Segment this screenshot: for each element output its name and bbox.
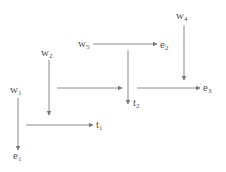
node-label-e2: e2 <box>160 38 169 52</box>
node-label-w2: w2 <box>41 46 53 60</box>
node-label-w5: w5 <box>78 37 90 51</box>
node-label-t2: t2 <box>133 96 140 110</box>
node-label-e1: e1 <box>13 149 22 163</box>
nodes-group: w1w2w5w4e1t1e2t2e3 <box>10 9 212 163</box>
edges-group <box>18 25 200 150</box>
node-label-w1: w1 <box>10 83 22 97</box>
node-label-e3: e3 <box>203 81 212 95</box>
node-label-t1: t1 <box>96 118 103 132</box>
flow-diagram: w1w2w5w4e1t1e2t2e3 <box>0 0 226 172</box>
node-label-w4: w4 <box>176 9 188 23</box>
